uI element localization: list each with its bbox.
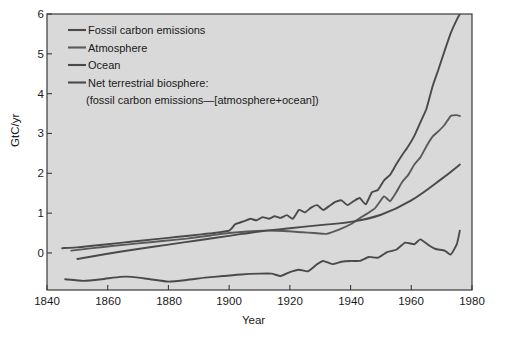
chart-container: GtC/yr Year 6 5 4 3 2 1 0 1840 1860 1880… [0, 0, 507, 339]
plot-background [47, 14, 472, 290]
legend-label-4: Net terrestrial biosphere: [88, 77, 208, 89]
plot-area: Fossil carbon emissionsAtmosphereOceanNe… [0, 0, 507, 339]
legend-label-1: Fossil carbon emissions [88, 24, 206, 36]
legend-label-5: (fossil carbon emissions—[atmosphere+oce… [86, 94, 319, 106]
legend-label-2: Atmosphere [88, 42, 147, 54]
legend-label-3: Ocean [88, 59, 120, 71]
